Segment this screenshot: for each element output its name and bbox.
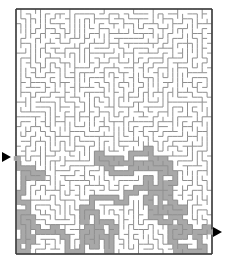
maze-stage <box>0 0 228 266</box>
entrance-arrow-icon <box>2 152 11 162</box>
exit-arrow-icon <box>213 227 222 237</box>
maze-grid[interactable] <box>0 0 228 266</box>
maze-puzzle-root: Maze Puzzle entrance-arrow exit-arrow Sh… <box>0 0 228 266</box>
